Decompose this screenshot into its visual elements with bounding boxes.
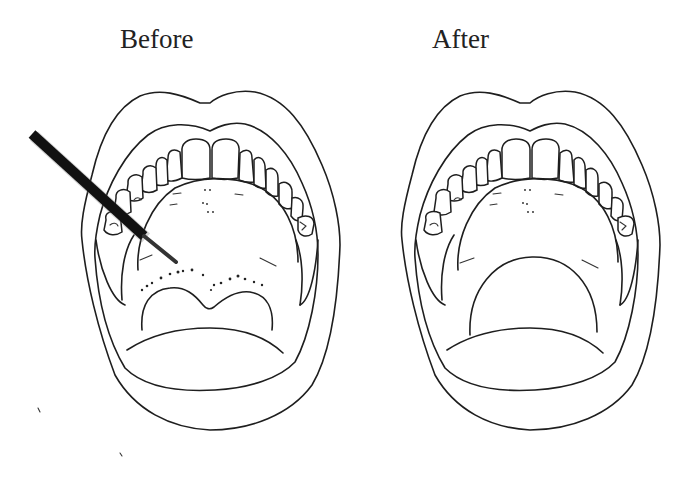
illustration bbox=[0, 0, 696, 477]
stray-mark bbox=[120, 453, 122, 456]
soft-palate-arch bbox=[470, 257, 597, 335]
before-mouth-drawing bbox=[32, 91, 340, 430]
lesions bbox=[141, 269, 263, 292]
instrument-probe bbox=[32, 134, 176, 262]
stray-mark bbox=[38, 408, 40, 412]
soft-palate-uvula bbox=[142, 288, 273, 330]
after-mouth-drawing bbox=[401, 91, 660, 430]
